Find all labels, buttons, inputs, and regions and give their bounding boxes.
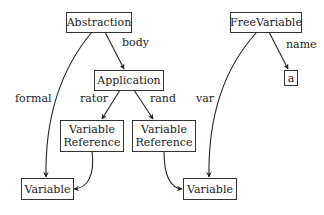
edge-varref2-variable bbox=[164, 151, 182, 189]
edge-label-name: name bbox=[286, 39, 317, 51]
node-variable-2: Variable bbox=[183, 178, 237, 200]
node-label-line2: Reference bbox=[64, 136, 121, 149]
node-label: a bbox=[288, 72, 295, 85]
node-label: FreeVariable bbox=[230, 16, 302, 29]
node-variable-reference-1: Variable Reference bbox=[60, 120, 124, 152]
edge-label-rator: rator bbox=[80, 93, 108, 105]
node-label-line1: Variable bbox=[141, 123, 187, 136]
node-application: Application bbox=[94, 70, 164, 91]
node-variable-reference-2: Variable Reference bbox=[132, 120, 196, 152]
edge-label-var: var bbox=[196, 93, 214, 105]
node-a: a bbox=[284, 70, 298, 86]
edge-label-body: body bbox=[122, 37, 149, 49]
node-variable-1: Variable bbox=[21, 178, 74, 200]
node-label: Variable bbox=[25, 183, 71, 196]
node-label-line1: Variable bbox=[69, 123, 115, 136]
edge-var bbox=[209, 32, 257, 177]
edge-varref1-variable bbox=[74, 151, 93, 189]
node-label-line2: Reference bbox=[136, 136, 193, 149]
edge-label-rand: rand bbox=[150, 93, 176, 105]
node-freevariable: FreeVariable bbox=[230, 12, 302, 33]
node-abstraction: Abstraction bbox=[66, 12, 132, 33]
edge-label-formal: formal bbox=[15, 93, 51, 105]
node-label: Application bbox=[97, 74, 160, 87]
node-label: Abstraction bbox=[67, 16, 132, 29]
node-label: Variable bbox=[187, 183, 233, 196]
